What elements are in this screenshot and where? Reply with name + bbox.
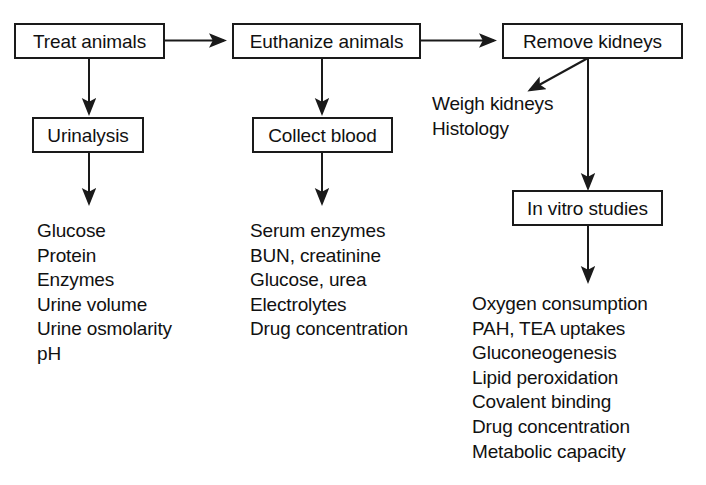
list-item: Drug concentration (472, 415, 648, 440)
list-item: Urine osmolarity (37, 317, 172, 342)
list-item: BUN, creatinine (250, 244, 408, 269)
list-item: Weigh kidneys (432, 92, 553, 117)
list-item: Protein (37, 244, 172, 269)
list-in-vitro-measures: Oxygen consumption PAH, TEA uptakes Gluc… (472, 292, 648, 464)
list-item: Gluconeogenesis (472, 341, 648, 366)
list-item: Urine volume (37, 293, 172, 318)
node-in-vitro-studies[interactable]: In vitro studies (512, 190, 663, 226)
list-item: Drug concentration (250, 317, 408, 342)
list-item: Electrolytes (250, 293, 408, 318)
node-in-vitro-studies-label: In vitro studies (527, 199, 648, 218)
list-blood-measures: Serum enzymes BUN, creatinine Glucose, u… (250, 219, 408, 342)
list-kidney-measures: Weigh kidneys Histology (432, 92, 553, 141)
list-item: Metabolic capacity (472, 440, 648, 465)
node-euthanize-animals[interactable]: Euthanize animals (232, 23, 421, 59)
node-remove-kidneys-label: Remove kidneys (523, 32, 662, 51)
list-item: Oxygen consumption (472, 292, 648, 317)
list-item: Glucose (37, 219, 172, 244)
list-item: Histology (432, 117, 553, 142)
node-urinalysis-label: Urinalysis (47, 126, 128, 145)
node-treat-animals[interactable]: Treat animals (14, 23, 165, 59)
list-item: Serum enzymes (250, 219, 408, 244)
list-item: Covalent binding (472, 390, 648, 415)
flowchart-canvas: Treat animals Euthanize animals Remove k… (0, 0, 706, 485)
list-item: Glucose, urea (250, 268, 408, 293)
list-item: PAH, TEA uptakes (472, 317, 648, 342)
list-item: Lipid peroxidation (472, 366, 648, 391)
list-urine-measures: Glucose Protein Enzymes Urine volume Uri… (37, 219, 172, 367)
node-collect-blood-label: Collect blood (268, 126, 377, 145)
node-collect-blood[interactable]: Collect blood (252, 117, 393, 153)
list-item: pH (37, 342, 172, 367)
node-treat-animals-label: Treat animals (33, 32, 146, 51)
node-remove-kidneys[interactable]: Remove kidneys (502, 23, 683, 59)
node-euthanize-animals-label: Euthanize animals (250, 32, 404, 51)
edge-remove-kidneys-to-kidney-list (530, 58, 588, 90)
list-item: Enzymes (37, 268, 172, 293)
node-urinalysis[interactable]: Urinalysis (32, 117, 144, 153)
